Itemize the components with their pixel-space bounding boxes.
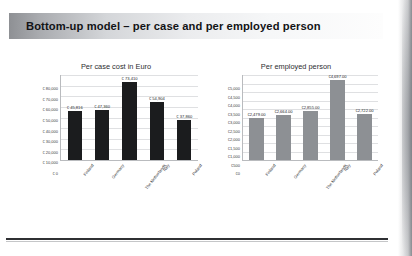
chart-per-employed-person: Per employed person €0€500€1,000€1,500€2… [206,62,386,190]
bar-value-label: € 45,816 [67,105,83,110]
gridline [243,92,378,93]
x-axis-category-label: Poland [191,163,203,176]
bar [249,118,263,160]
bar-value-label: €2,479.00 [247,112,265,117]
bar [122,82,136,160]
page-title: Bottom-up model – per case and per emplo… [26,13,376,39]
slide: Bottom-up model – per case and per emplo… [0,0,412,256]
gridline [243,75,378,76]
chart-title-left: Per case cost in Euro [26,62,206,71]
page-edge-shadow [398,0,412,256]
y-axis-tick-label: € 20,000 [42,149,58,154]
chart-per-case-cost: Per case cost in Euro € 0€ 10,000€ 20,00… [26,62,206,190]
bar-value-label: € 47,360 [94,104,110,109]
bar [276,115,290,160]
bar [68,111,82,160]
bar [150,102,164,160]
x-axis-category-label: Germany [292,163,307,180]
y-axis-tick-label: €1,000 [228,154,240,159]
bar [303,111,317,160]
y-axis-tick-label: € 0 [52,171,58,176]
bar-value-label: € 73,410 [122,76,138,81]
y-axis-tick-label: €4,000 [228,103,240,108]
y-axis-tick-label: €4,500 [228,94,240,99]
bar-value-label: €2,664.00 [274,109,292,114]
y-axis-tick-label: €3,000 [228,120,240,125]
y-axis-tick-label: €1,500 [228,145,240,150]
y-axis-tick-label: €0 [236,171,240,176]
slide-bottom-rule-soft [6,241,388,242]
x-axis-category-label: Germany [111,163,126,180]
y-axis-tick-label: € 30,000 [42,139,58,144]
plot-area-right: €2,479.00€2,664.00€2,855.00€4,697.00€2,7… [242,75,378,161]
x-axis-category-label: Finland [82,163,94,177]
bar [357,114,371,160]
y-axis-tick-label: € 70,000 [42,96,58,101]
bar-value-label: €2,855.00 [301,105,319,110]
y-axis-tick-label: € 50,000 [42,117,58,122]
y-axis-tick-label: €5,000 [228,86,240,91]
y-axis-tick-label: € 60,000 [42,107,58,112]
y-axis-tick-label: €3,500 [228,111,240,116]
bar-value-label: € 54,904 [149,96,165,101]
bar-value-label: € 37,860 [176,114,192,119]
plot-area-left: € 45,816€ 47,360€ 73,410€ 54,904€ 37,860 [60,75,198,161]
slide-bottom-rule [6,238,388,240]
x-axis-category-label: Poland [372,163,384,176]
x-axis-category-label: Finland [264,163,276,177]
y-axis-tick-label: €2,500 [228,128,240,133]
bar [177,120,191,160]
y-axis-tick-label: €2,000 [228,137,240,142]
y-axis-right: €0€500€1,000€1,500€2,000€2,500€3,000€3,5… [206,75,240,161]
y-axis-tick-label: € 80,000 [42,86,58,91]
y-axis-tick-label: € 10,000 [42,160,58,165]
bar [330,80,344,160]
y-axis-tick-label: € 40,000 [42,128,58,133]
bar [95,110,109,160]
chart-title-right: Per employed person [206,62,386,71]
gridline [243,84,378,85]
gridline [243,101,378,102]
y-axis-left: € 0€ 10,000€ 20,000€ 30,000€ 40,000€ 50,… [26,75,58,161]
bar-value-label: €4,697.00 [328,74,346,79]
page-edge-curve [402,0,412,256]
y-axis-tick-label: €500 [231,162,240,167]
bar-value-label: €2,722.00 [355,108,373,113]
